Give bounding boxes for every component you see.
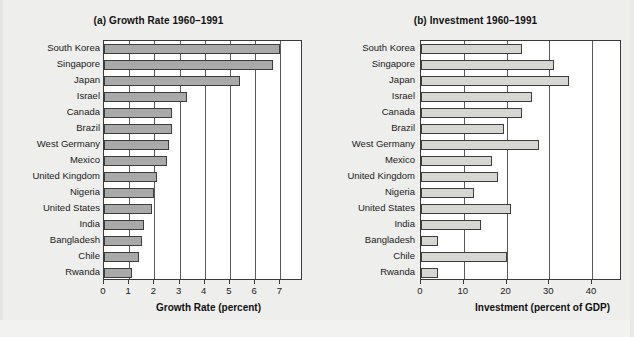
- bar: [421, 220, 481, 230]
- panel-a-title: (a) Growth Rate 1960–1991: [0, 15, 317, 26]
- x-tick-label: 40: [576, 285, 606, 296]
- y-axis-label: Canada: [67, 107, 100, 117]
- y-axis-label: Bangladesh: [365, 235, 415, 245]
- bar: [421, 92, 532, 102]
- x-tick-mark: [179, 280, 180, 284]
- y-axis-label: India: [79, 219, 100, 229]
- bar: [104, 188, 154, 198]
- y-axis-label: Chile: [393, 251, 415, 261]
- y-axis-label: Nigeria: [385, 187, 415, 197]
- bar: [104, 268, 132, 278]
- figure-bottom-strip: [0, 320, 634, 337]
- bar: [104, 204, 152, 214]
- y-axis-label: West Germany: [37, 139, 100, 149]
- y-axis-label: West Germany: [352, 139, 415, 149]
- y-axis-label: Rwanda: [380, 267, 415, 277]
- x-tick-mark: [254, 280, 255, 284]
- x-tick-mark: [463, 280, 464, 284]
- bar: [104, 252, 139, 262]
- x-axis-title-a: Growth Rate (percent): [156, 302, 261, 313]
- gridline: [280, 41, 281, 279]
- bar: [104, 60, 273, 70]
- x-tick-mark: [103, 280, 104, 284]
- bar: [421, 156, 492, 166]
- bar: [421, 268, 438, 278]
- y-axis-label: United States: [358, 203, 415, 213]
- x-tick-mark: [229, 280, 230, 284]
- y-axis-label: Japan: [389, 75, 415, 85]
- bar: [104, 44, 280, 54]
- bar: [421, 44, 522, 54]
- y-axis-label: Brazil: [76, 123, 100, 133]
- bar: [104, 76, 240, 86]
- bar: [421, 76, 569, 86]
- bar: [104, 172, 157, 182]
- panel-growth-rate: (a) Growth Rate 1960–1991 South KoreaSin…: [0, 0, 317, 337]
- bar: [104, 156, 167, 166]
- x-tick-mark: [279, 280, 280, 284]
- y-axis-label: Israel: [77, 91, 100, 101]
- x-tick-mark: [204, 280, 205, 284]
- figure-right-edge: [630, 0, 634, 337]
- gridline: [592, 41, 593, 279]
- y-axis-label: Chile: [78, 251, 100, 261]
- bar: [104, 220, 144, 230]
- x-tick-label: 30: [533, 285, 563, 296]
- bar: [104, 108, 172, 118]
- y-axis-label: Nigeria: [70, 187, 100, 197]
- y-axis-label: Canada: [382, 107, 415, 117]
- bar: [104, 92, 187, 102]
- x-tick-mark: [128, 280, 129, 284]
- bar: [421, 204, 511, 214]
- y-axis-label: Bangladesh: [50, 235, 100, 245]
- x-tick-label: 7: [264, 285, 294, 296]
- y-axis-label: Mexico: [385, 155, 415, 165]
- x-tick-label: 20: [491, 285, 521, 296]
- bar: [421, 140, 539, 150]
- x-axis-ticks-a: 01234567: [83, 283, 322, 297]
- y-axis-label: Singapore: [372, 59, 415, 69]
- panel-investment: (b) Investment 1960–1991 South KoreaSing…: [317, 0, 634, 337]
- bar: [104, 140, 169, 150]
- panel-b-title: (b) Investment 1960–1991: [317, 15, 634, 26]
- x-tick-mark: [153, 280, 154, 284]
- plot-area-a: [103, 40, 302, 280]
- x-tick-mark: [548, 280, 549, 284]
- y-axis-label: Israel: [392, 91, 415, 101]
- gridline: [255, 41, 256, 279]
- bar: [421, 236, 438, 246]
- bar: [421, 124, 504, 134]
- y-axis-label: Singapore: [57, 59, 100, 69]
- y-axis-label: South Korea: [47, 43, 100, 53]
- y-axis-label: Mexico: [70, 155, 100, 165]
- y-axis-label: United Kingdom: [347, 171, 415, 181]
- x-tick-mark: [506, 280, 507, 284]
- plot-area-b: [420, 40, 621, 280]
- bar: [421, 172, 498, 182]
- x-axis-ticks-b: 010203040: [400, 283, 634, 297]
- y-axis-label: South Korea: [362, 43, 415, 53]
- x-tick-mark: [420, 280, 421, 284]
- bar: [104, 124, 172, 134]
- x-tick-label: 10: [448, 285, 478, 296]
- y-axis-label: United States: [43, 203, 100, 213]
- x-tick-label: 0: [405, 285, 435, 296]
- x-axis-title-b: Investment (percent of GDP): [475, 302, 610, 313]
- y-axis-label: India: [394, 219, 415, 229]
- y-axis-labels-b: South KoreaSingaporeJapanIsraelCanadaBra…: [327, 40, 415, 280]
- x-tick-mark: [591, 280, 592, 284]
- y-axis-label: Rwanda: [65, 267, 100, 277]
- y-axis-label: Brazil: [391, 123, 415, 133]
- bar: [421, 252, 507, 262]
- bar: [421, 60, 554, 70]
- bar: [421, 188, 474, 198]
- y-axis-label: Japan: [74, 75, 100, 85]
- bar: [421, 108, 522, 118]
- figure-container: (a) Growth Rate 1960–1991 South KoreaSin…: [0, 0, 634, 337]
- y-axis-label: United Kingdom: [32, 171, 100, 181]
- bar: [104, 236, 142, 246]
- y-axis-labels-a: South KoreaSingaporeJapanIsraelCanadaBra…: [18, 40, 100, 280]
